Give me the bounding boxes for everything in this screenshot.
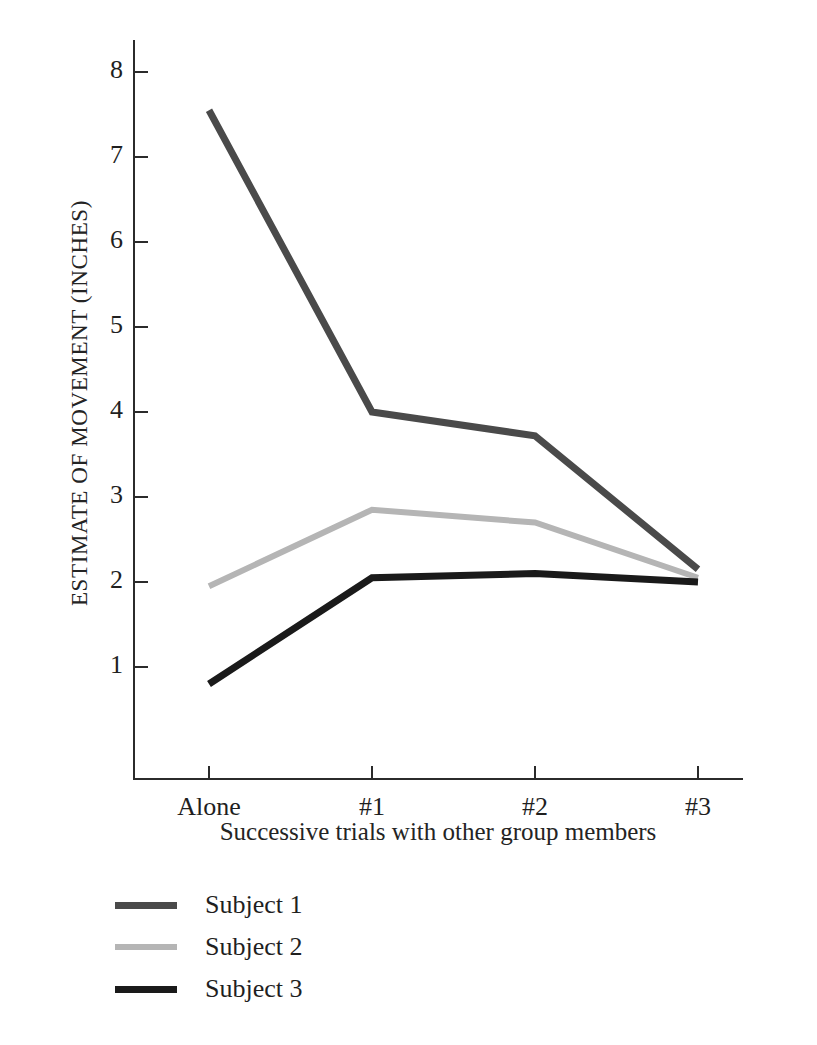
legend-swatch-icon xyxy=(115,944,177,950)
chart-legend: Subject 1Subject 2Subject 3 xyxy=(115,884,303,1010)
legend-label: Subject 1 xyxy=(205,892,303,918)
x-axis-title: Successive trials with other group membe… xyxy=(133,818,743,846)
line-chart-figure: ESTIMATE OF MOVEMENT (INCHES) 87654321 A… xyxy=(0,0,817,1045)
plot-area: 87654321 Alone#1#2#3 xyxy=(133,40,743,780)
series-lines xyxy=(133,40,743,780)
legend-label: Subject 3 xyxy=(205,976,303,1002)
y-tick-label: 3 xyxy=(110,482,123,508)
legend-item-1[interactable]: Subject 1 xyxy=(115,884,303,926)
series-line-1 xyxy=(209,110,698,569)
y-tick-label: 7 xyxy=(110,142,123,168)
legend-swatch-icon xyxy=(115,902,177,909)
y-tick-label: 6 xyxy=(110,227,123,253)
y-tick-label: 2 xyxy=(110,567,123,593)
y-tick-label: 4 xyxy=(110,397,123,423)
y-axis-title: ESTIMATE OF MOVEMENT (INCHES) xyxy=(67,93,93,713)
legend-swatch-icon xyxy=(115,986,177,993)
series-line-3 xyxy=(209,574,698,685)
y-tick-label: 8 xyxy=(110,57,123,83)
legend-item-2[interactable]: Subject 2 xyxy=(115,926,303,968)
legend-label: Subject 2 xyxy=(205,934,303,960)
y-tick-label: 1 xyxy=(110,652,123,678)
legend-item-3[interactable]: Subject 3 xyxy=(115,968,303,1010)
y-tick-label: 5 xyxy=(110,312,123,338)
